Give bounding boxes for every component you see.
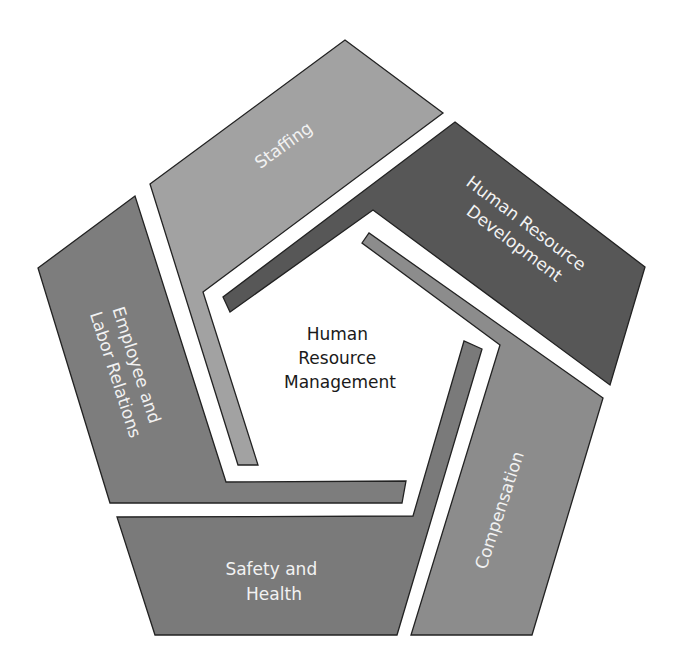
center-hrm: Human Resource Management [284, 324, 396, 392]
hrm-diagram: Staffing Human Resource Development Comp… [0, 0, 688, 668]
center-label: Human Resource Management [284, 324, 396, 392]
